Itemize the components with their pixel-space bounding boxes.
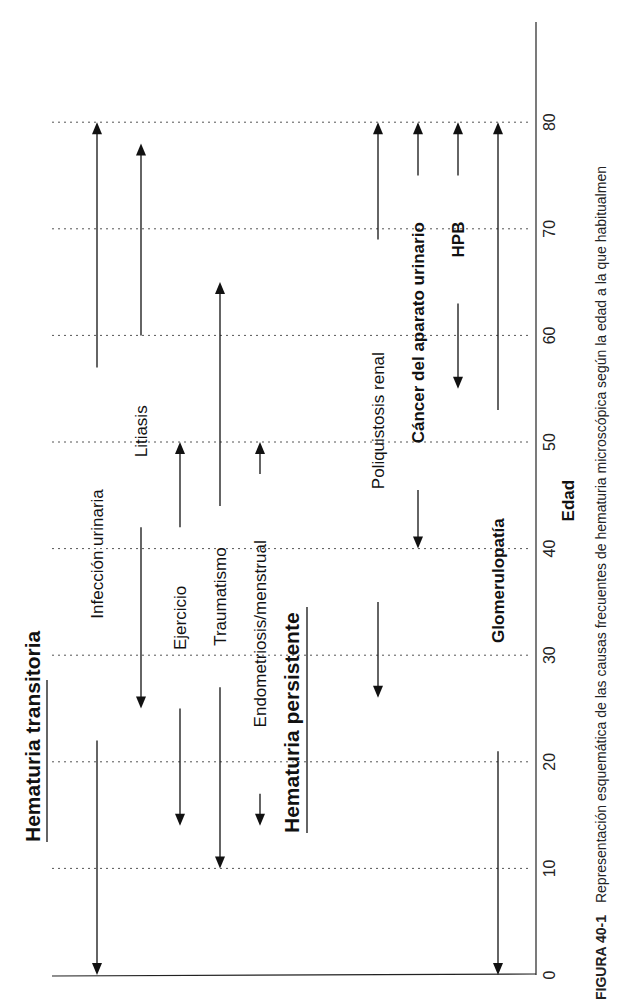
cause-label: Ejercicio [171, 586, 190, 650]
arrow-head-down-icon [136, 697, 146, 709]
cause-item: Ejercicio [171, 442, 190, 826]
cause-label: HPB [449, 222, 468, 258]
axis-label-edad: Edad [559, 480, 578, 522]
arrow-head-down-icon [453, 377, 463, 389]
cause-item: Infección urinaria [88, 122, 107, 975]
group-title: Hematuria transitoria [21, 630, 44, 842]
arrow-head-up-icon [493, 122, 503, 134]
age-tick-labels: 01020304050607080 [541, 113, 558, 979]
figure-label: FIGURA 40-1 [593, 915, 609, 1000]
baseline [52, 974, 536, 976]
cause-label: Cáncer del aparato urinario [409, 222, 428, 443]
arrow-head-down-icon [413, 537, 423, 549]
tick-label: 80 [541, 113, 558, 131]
arrow-head-down-icon [493, 963, 503, 975]
cause-item: Glomerulopatía [489, 122, 508, 975]
hematuria-age-chart: 01020304050607080 Hematuria transitoriaI… [0, 0, 618, 1008]
cause-label: Litiasis [132, 405, 151, 457]
arrow-head-up-icon [136, 144, 146, 156]
tick-label: 60 [541, 326, 558, 344]
tick-label: 40 [541, 540, 558, 558]
figure-caption: FIGURA 40-1 Representación esquemática d… [593, 166, 609, 1000]
cause-item: Endometriosis/menstrual [251, 442, 270, 826]
arrow-head-down-icon [215, 856, 225, 868]
arrow-head-up-icon [453, 122, 463, 134]
arrow-head-up-icon [255, 442, 265, 454]
cause-label: Poliquistosis renal [369, 352, 388, 489]
arrow-head-down-icon [175, 814, 185, 826]
group-title: Hematuria persistente [280, 612, 303, 833]
arrow-head-up-icon [215, 282, 225, 294]
arrow-head-down-icon [255, 814, 265, 826]
cause-item: Cáncer del aparato urinario [409, 122, 428, 548]
cause-item: Litiasis [132, 144, 151, 709]
arrow-head-up-icon [175, 442, 185, 454]
arrow-head-down-icon [92, 963, 102, 975]
tick-label: 50 [541, 433, 558, 451]
cause-groups: Hematuria transitoriaInfección urinariaL… [21, 122, 508, 975]
tick-label: 0 [541, 970, 558, 979]
tick-label: 10 [541, 859, 558, 877]
tick-label: 20 [541, 753, 558, 771]
arrow-head-up-icon [92, 122, 102, 134]
cause-label: Infección urinaria [88, 489, 107, 619]
cause-label: Traumatismo [211, 547, 230, 646]
cause-item: HPB [449, 122, 468, 389]
tick-label: 70 [541, 220, 558, 238]
arrow-head-up-icon [373, 122, 383, 134]
arrow-head-up-icon [413, 122, 423, 134]
tick-label: 30 [541, 646, 558, 664]
cause-label: Endometriosis/menstrual [251, 540, 270, 727]
cause-label: Glomerulopatía [489, 518, 508, 643]
arrow-head-down-icon [373, 686, 383, 698]
caption-text: Representación esquemática de las causas… [593, 166, 609, 903]
cause-item: Traumatismo [211, 282, 230, 868]
cause-item: Poliquistosis renal [369, 122, 388, 698]
